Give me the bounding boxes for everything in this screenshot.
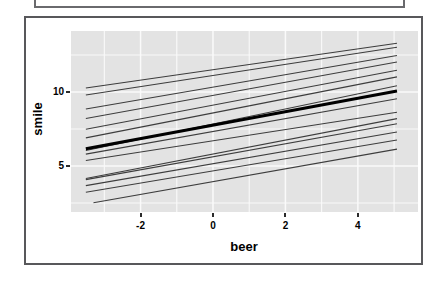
x-tick-mark [212,213,214,217]
y-tick-label: 5 [32,160,64,172]
x-tick-label: 2 [270,220,300,232]
subject-regression-line [86,62,397,118]
partial-frame-above [34,0,405,8]
x-tick-mark [284,213,286,217]
x-tick-label: 4 [343,220,373,232]
x-tick-mark [140,213,142,217]
plot-canvas [71,31,418,212]
plot-panel [71,31,418,212]
subject-regression-line [86,119,397,179]
y-tick-mark [66,91,70,93]
screenshot-root: -2024510 beer smile [0,0,442,285]
subject-regression-line [86,124,397,180]
y-tick-mark [66,165,70,167]
subject-regression-line [86,43,397,88]
y-axis-title: smile [31,89,45,149]
x-tick-label: 0 [198,220,228,232]
x-tick-mark [357,213,359,217]
x-axis-title: beer [214,240,274,254]
x-tick-label: -2 [126,220,156,232]
plot-figure-frame: -2024510 beer smile [24,16,423,265]
